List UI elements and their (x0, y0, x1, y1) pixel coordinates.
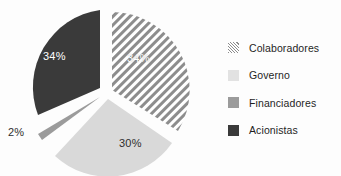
legend-item-financiadores: Financiadores (228, 89, 341, 117)
legend-label-colaboradores: Colaboradores (249, 42, 319, 54)
slice-label-acionistas: 34% (43, 50, 66, 62)
legend-label-acionistas: Acionistas (249, 124, 298, 136)
slice-label-financiadores: 2% (8, 126, 24, 138)
pie-slice-acionistas (33, 10, 100, 115)
pie-chart-figure: 34% 34% 30% 2% Colaboradores Governo Fin… (0, 0, 341, 176)
medium-gray-swatch-icon (228, 97, 239, 108)
legend-label-financiadores: Financiadores (249, 97, 316, 109)
legend-item-governo: Governo (228, 62, 341, 90)
pie-chart-plot-area: 34% 34% 30% 2% (0, 0, 215, 176)
legend-label-governo: Governo (249, 69, 290, 81)
legend-item-acionistas: Acionistas (228, 117, 341, 145)
pie-chart-svg (0, 0, 215, 176)
slice-label-colaboradores: 34% (127, 52, 150, 64)
legend-item-colaboradores: Colaboradores (228, 34, 341, 62)
slice-label-governo: 30% (119, 137, 142, 149)
dark-gray-swatch-icon (228, 125, 239, 136)
chart-legend: Colaboradores Governo Financiadores Acio… (228, 34, 341, 144)
hatch-swatch-icon (228, 42, 239, 53)
light-gray-swatch-icon (228, 70, 239, 81)
